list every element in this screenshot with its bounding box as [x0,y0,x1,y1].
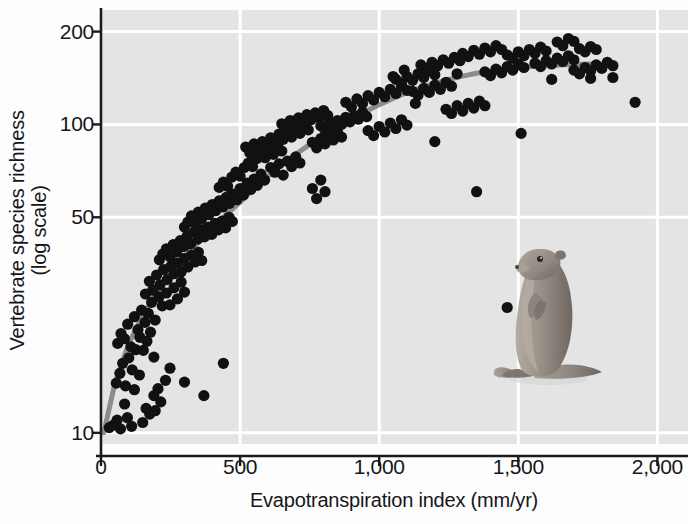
x-axis-label: Evapotranspiration index (mm/yr) [100,489,688,512]
data-point [307,183,318,194]
data-point [410,98,421,109]
data-point [134,369,145,380]
data-point [399,65,410,76]
data-point [452,68,463,79]
data-point [114,368,125,379]
y-tick-label: 200 [60,20,94,44]
data-point [568,54,579,65]
x-tick-label: 500 [223,455,257,479]
data-point [479,100,490,111]
data-point [361,111,372,122]
data-point [429,136,440,147]
y-tick-label: 100 [60,112,94,136]
data-point [152,383,163,394]
data-point [276,145,287,156]
data-point [388,71,399,82]
data-point [336,132,347,143]
data-point [218,358,229,369]
data-point [630,97,641,108]
data-point [227,216,238,227]
y-tick-label: 50 [71,205,94,229]
scatter-plot-canvas [0,0,688,524]
data-point [125,341,136,352]
data-point [119,398,130,409]
data-point [315,175,326,186]
data-point [591,44,602,55]
data-point [198,390,209,401]
data-point [179,377,190,388]
data-point [518,62,529,73]
data-point [319,186,330,197]
data-point [120,380,131,391]
x-tick-label: 2,000 [632,455,683,479]
data-point [126,421,137,432]
data-point [196,255,207,266]
data-point [585,73,596,84]
data-point [471,186,482,197]
x-tick-label: 1,000 [354,455,405,479]
data-point [278,170,289,181]
data-point [160,375,171,386]
data-point [546,74,557,85]
data-point [446,81,457,92]
data-point [259,175,270,186]
data-point [115,423,126,434]
data-point [516,128,527,139]
x-tick-label: 1,500 [493,455,544,479]
data-point [150,315,161,326]
data-point [164,363,175,374]
data-point [401,120,412,131]
data-point [148,352,159,363]
x-axis-tick-labels: 05001,0001,5002,000 [0,455,688,485]
data-point [150,405,161,416]
data-point [502,302,513,313]
data-point [294,157,305,168]
x-tick-label: 0 [95,455,106,479]
data-point [179,287,190,298]
data-point [541,45,552,56]
y-axis-tick-labels: 1050100200 [36,0,94,524]
data-point [145,327,156,338]
y-axis-label-line1: Vertebrate species richness [6,110,28,350]
data-point [607,72,618,83]
y-tick-label: 10 [71,421,94,445]
data-point [607,60,618,71]
chart-figure: Vertebrate species richness (log scale) … [0,0,688,524]
data-point [176,277,187,288]
